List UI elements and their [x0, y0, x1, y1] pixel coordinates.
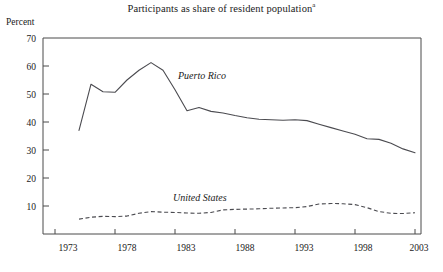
x-tick-label: 2003: [410, 243, 429, 253]
x-tick-label: 1988: [236, 243, 255, 253]
y-axis-ticks: [43, 66, 49, 206]
x-axis-ticks: [55, 229, 415, 234]
y-axis-tick-labels: 70 60 50 40 30 20 10: [27, 34, 37, 212]
x-tick-label: 1983: [177, 243, 196, 253]
y-tick-label: 70: [27, 34, 37, 44]
y-tick-label: 50: [27, 90, 37, 100]
y-tick-label: 20: [27, 174, 37, 184]
x-tick-label: 1993: [295, 243, 314, 253]
x-tick-label: 1998: [354, 243, 373, 253]
y-tick-label: 10: [27, 202, 37, 212]
series-annotation-puerto-rico: Puerto Rico: [177, 70, 226, 81]
plot-area: 70 60 50 40 30 20 10 1973 1978 1983 1988…: [0, 0, 443, 272]
series-line-united-states: [79, 203, 415, 219]
plot-frame: [43, 38, 421, 234]
series-annotation-united-states: United States: [173, 192, 227, 203]
y-tick-label: 30: [27, 146, 37, 156]
chart-figure: Participants as share of resident popula…: [0, 0, 443, 272]
series-line-puerto-rico: [79, 63, 415, 153]
y-tick-label: 40: [27, 118, 37, 128]
x-axis-tick-labels: 1973 1978 1983 1988 1993 1998 2003: [59, 243, 429, 253]
x-tick-label: 1973: [59, 243, 78, 253]
x-tick-label: 1978: [118, 243, 137, 253]
y-tick-label: 60: [27, 62, 37, 72]
